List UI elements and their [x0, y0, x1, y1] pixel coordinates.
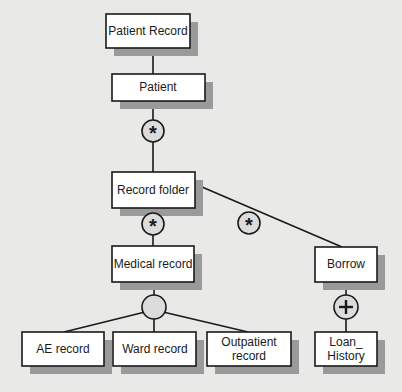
node-label: Record folder [117, 183, 189, 197]
svg-text:*: * [149, 122, 157, 144]
node-label-line1: Outpatient [221, 335, 277, 349]
node-label: Borrow [327, 257, 365, 271]
node-patient[interactable]: Patient [112, 74, 213, 109]
node-label-line2: History [327, 349, 364, 363]
selection-symbol-icon [142, 295, 166, 319]
node-outpatient-record[interactable]: Outpatient record [207, 332, 299, 374]
node-borrow[interactable]: Borrow [315, 247, 385, 290]
node-label: AE record [36, 342, 89, 356]
node-label-line2: record [232, 349, 266, 363]
node-label-line1: Loan_ [329, 335, 363, 349]
diagram-canvas: Patient Record Patient * Record folder *… [0, 0, 402, 392]
node-label: Medical record [114, 257, 193, 271]
iteration-symbol-icon: * [142, 213, 164, 237]
node-medical-record[interactable]: Medical record [112, 246, 202, 290]
node-ward-record[interactable]: Ward record [113, 332, 204, 374]
node-label: Patient [139, 80, 177, 94]
iteration-symbol-icon: * [142, 120, 164, 144]
node-record-folder[interactable]: Record folder [112, 172, 203, 216]
node-ae-record[interactable]: AE record [22, 332, 112, 374]
iteration-symbol-icon: * [238, 212, 260, 236]
edge-medical-to-outpatient [163, 312, 248, 332]
node-patient-record[interactable]: Patient Record [106, 14, 198, 56]
svg-text:*: * [149, 215, 157, 237]
svg-text:*: * [245, 214, 253, 236]
edge-record-folder-to-borrow [195, 184, 342, 247]
edge-medical-to-ae [64, 312, 145, 332]
node-label: Patient Record [108, 24, 187, 38]
node-label: Ward record [122, 342, 188, 356]
node-loan-history[interactable]: Loan_ History [315, 332, 385, 374]
plus-symbol-icon [334, 295, 358, 319]
